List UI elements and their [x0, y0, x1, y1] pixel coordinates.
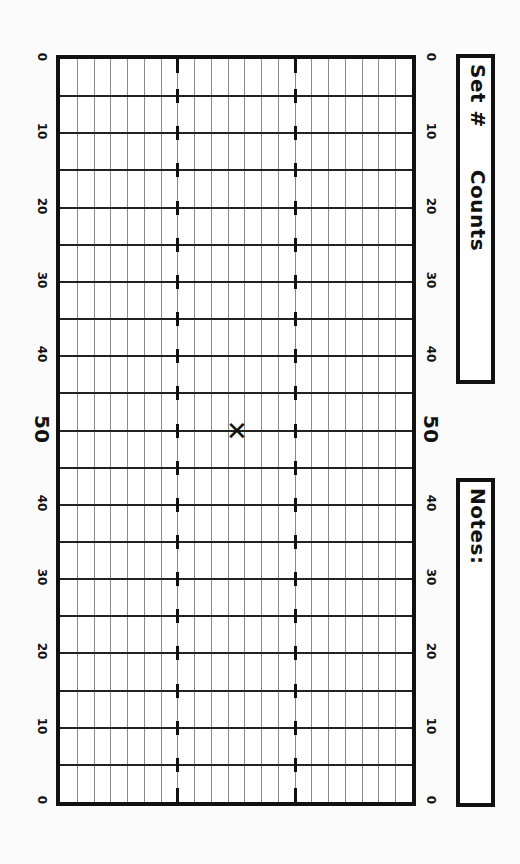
yard-label-left: 30: [32, 562, 52, 592]
counts-label: Counts: [466, 170, 490, 251]
center-x-marker[interactable]: ✕: [226, 421, 246, 441]
yard-label-right: 20: [421, 191, 441, 221]
hash-mark: [176, 758, 179, 772]
hash-mark: [176, 646, 179, 660]
yard-label-left: 10: [32, 711, 52, 741]
hash-mark: [176, 312, 179, 326]
yard-line: [60, 467, 412, 469]
yard-label-right: 40: [421, 488, 441, 518]
set-counts-heading: Set #Counts: [466, 64, 490, 251]
yard-line: [60, 169, 412, 171]
yard-line: [60, 578, 412, 580]
hash-mark: [176, 609, 179, 623]
hash-mark: [294, 238, 297, 252]
hash-mark: [294, 535, 297, 549]
notes-box[interactable]: Notes:: [456, 478, 495, 807]
hash-mark: [176, 684, 179, 698]
hash-mark: [294, 201, 297, 215]
hash-mark: [294, 386, 297, 400]
hash-mark: [294, 275, 297, 289]
hash-mark: [176, 89, 179, 103]
yard-label-right: 30: [421, 562, 441, 592]
yard-label-right: 30: [421, 265, 441, 295]
hash-mark: [176, 572, 179, 586]
yard-label-left: 20: [32, 191, 52, 221]
hash-mark: [294, 126, 297, 140]
hash-mark: [294, 788, 297, 802]
hash-mark: [294, 424, 297, 438]
yard-label-left: 40: [32, 339, 52, 369]
hash-mark: [176, 498, 179, 512]
yard-line: [60, 355, 412, 357]
yard-line: [60, 652, 412, 654]
yard-line: [60, 318, 412, 320]
hash-mark: [176, 386, 179, 400]
yard-line: [60, 727, 412, 729]
hash-mark: [294, 646, 297, 660]
hash-mark: [294, 572, 297, 586]
yard-line: [60, 95, 412, 97]
yard-line: [60, 615, 412, 617]
hash-mark: [176, 201, 179, 215]
yard-line: [60, 281, 412, 283]
hash-mark: [176, 461, 179, 475]
yard-label-right: 10: [421, 116, 441, 146]
hash-mark: [176, 788, 179, 802]
yard-line: [60, 132, 412, 134]
yard-label-right: 0: [421, 785, 441, 815]
hash-mark: [176, 535, 179, 549]
hash-mark: [294, 312, 297, 326]
yard-label-left: 30: [32, 265, 52, 295]
yard-line: [60, 207, 412, 209]
hash-mark: [294, 721, 297, 735]
yard-label-right: 40: [421, 339, 441, 369]
yard-line: [60, 504, 412, 506]
set-label: Set #: [466, 64, 490, 128]
yard-label-left: 0: [32, 785, 52, 815]
set-counts-box: Set #Counts: [456, 54, 495, 384]
yard-label-left: 10: [32, 116, 52, 146]
hash-mark: [294, 684, 297, 698]
hash-mark: [294, 59, 297, 73]
yard-line: [60, 764, 412, 766]
hash-mark: [176, 424, 179, 438]
hash-mark: [294, 461, 297, 475]
yard-label-right: 50: [421, 414, 441, 444]
hash-mark: [294, 758, 297, 772]
hash-mark: [176, 349, 179, 363]
yard-line: [60, 690, 412, 692]
yard-label-right: 20: [421, 636, 441, 666]
yard-label-left: 50: [32, 414, 52, 444]
notes-label: Notes:: [466, 488, 490, 565]
hash-mark: [294, 349, 297, 363]
hash-mark: [294, 89, 297, 103]
yard-line: [60, 244, 412, 246]
hash-mark: [294, 163, 297, 177]
yard-line: [60, 392, 412, 394]
yard-line: [60, 541, 412, 543]
yard-label-left: 0: [32, 42, 52, 72]
hash-mark: [294, 498, 297, 512]
notes-heading: Notes:: [466, 488, 490, 565]
yard-label-right: 0: [421, 42, 441, 72]
hash-mark: [176, 275, 179, 289]
hash-mark: [176, 59, 179, 73]
hash-mark: [176, 126, 179, 140]
hash-mark: [294, 609, 297, 623]
hash-mark: [176, 238, 179, 252]
yard-label-left: 20: [32, 636, 52, 666]
yard-label-right: 10: [421, 711, 441, 741]
hash-mark: [176, 721, 179, 735]
yard-label-left: 40: [32, 488, 52, 518]
hash-mark: [176, 163, 179, 177]
football-field-grid[interactable]: ✕: [56, 55, 416, 806]
